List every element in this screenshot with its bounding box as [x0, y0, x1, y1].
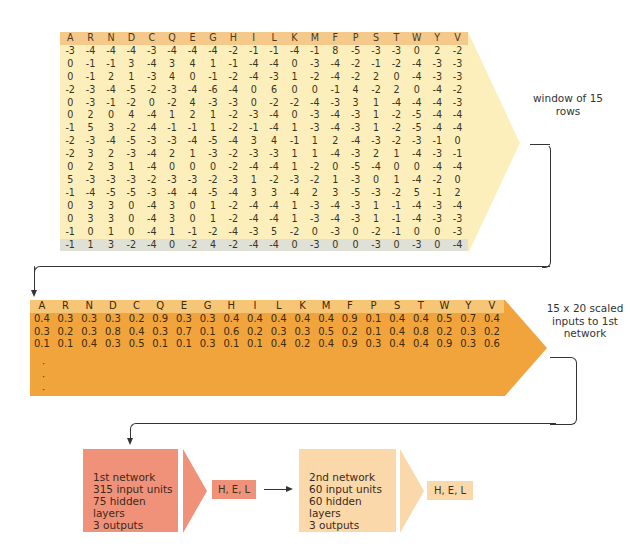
table-cell: 0	[162, 161, 182, 174]
table-cell: -3	[305, 200, 325, 213]
table-cell: 2	[162, 148, 182, 161]
table-cell: -1	[60, 239, 80, 252]
table-cell: -3	[407, 135, 427, 148]
table-cell: 2	[366, 148, 386, 161]
table-cell: -4	[284, 45, 304, 58]
table-cell: -4	[407, 148, 427, 161]
table-cell: 4	[182, 58, 202, 71]
table-cell: -3	[60, 45, 80, 58]
table-cell: 3	[325, 187, 345, 200]
table-cell: 3	[80, 213, 100, 226]
table-cell: -3	[182, 174, 202, 187]
table-cell: -4	[447, 200, 467, 213]
table-cell: 0.4	[125, 326, 149, 339]
table-cell: -3	[407, 239, 427, 252]
table-cell: 0.4	[77, 338, 101, 351]
table-cell: 0.2	[480, 326, 504, 339]
table-cell: 0.4	[409, 313, 433, 326]
table-cell: -3	[345, 122, 365, 135]
table-cell: -3	[345, 109, 365, 122]
table-cell: 0	[407, 226, 427, 239]
table-cell: -4	[101, 45, 121, 58]
table-cell: 1	[386, 148, 406, 161]
table-cell: -1	[80, 58, 100, 71]
table-cell: 0	[60, 58, 80, 71]
table-cell: -3	[366, 239, 386, 252]
table-cell: 1	[203, 109, 223, 122]
table-cell: -4	[101, 84, 121, 97]
connector-line	[40, 266, 550, 267]
table-cell: -4	[284, 187, 304, 200]
table-cell: -3	[142, 135, 162, 148]
scaled-inputs-label: 15 x 20 scaled inputs to 1st network	[540, 302, 630, 340]
table-cell: -4	[244, 161, 264, 174]
table-cell: 0.3	[30, 326, 54, 339]
table-cell: -2	[223, 109, 243, 122]
table-cell: 0	[203, 161, 223, 174]
table-cell: 0	[182, 200, 202, 213]
table-cell: 1	[284, 161, 304, 174]
column-header: I	[243, 300, 267, 313]
table-cell: -4	[407, 71, 427, 84]
table-cell: -4	[264, 161, 284, 174]
network2-arrow-shape	[400, 449, 424, 533]
column-header: R	[54, 300, 78, 313]
table-cell: 0	[60, 71, 80, 84]
table-cell: 1	[203, 122, 223, 135]
table-cell: 2	[182, 109, 202, 122]
table-cell: -2	[284, 97, 304, 110]
table-cell: -2	[386, 122, 406, 135]
table-cell: 0.5	[314, 326, 338, 339]
table-row: 0-121-340-1-2-4-31-2-4-220-4-3-3	[60, 71, 468, 84]
table-cell: 0.1	[148, 338, 172, 351]
table-cell: -3	[427, 200, 447, 213]
table-cell: -3	[203, 148, 223, 161]
table-cell: 0.8	[409, 326, 433, 339]
table-cell: 0.9	[148, 313, 172, 326]
second-network-box: 2nd network 60 input units 60 hidden lay…	[299, 449, 396, 532]
table-cell: 0	[427, 239, 447, 252]
table-cell: -4	[264, 213, 284, 226]
table-cell: 0	[325, 161, 345, 174]
table-cell: -4	[447, 109, 467, 122]
table-cell: 0	[121, 200, 141, 213]
table-cell: 0	[427, 226, 447, 239]
table-cell: -5	[121, 84, 141, 97]
table-cell: -4	[203, 45, 223, 58]
table-cell: 0.3	[172, 313, 196, 326]
table-cell: 2	[366, 71, 386, 84]
scaled-inputs-matrix: ARNDCQEGHILKMFPSTWYV0.40.30.30.30.20.90.…	[30, 300, 505, 396]
table-cell: -1	[427, 187, 447, 200]
table-cell: -2	[386, 58, 406, 71]
table-cell: 4	[345, 84, 365, 97]
table-cell: 8	[325, 45, 345, 58]
window-label: window of 15 rows	[520, 92, 616, 118]
table-cell: 0.3	[101, 338, 125, 351]
table-cell: 3	[162, 213, 182, 226]
column-header: F	[325, 32, 345, 45]
scaled-inputs-table: ARNDCQEGHILKMFPSTWYV0.40.30.30.30.20.90.…	[30, 300, 504, 351]
table-cell: 0	[284, 58, 304, 71]
table-cell: 1	[101, 226, 121, 239]
table-cell: 1	[366, 97, 386, 110]
table-row: 0-1-13-4341-1-4-40-3-4-2-1-2-4-3-3	[60, 58, 468, 71]
table-cell: 0.1	[362, 326, 386, 339]
table-row: 0330-4301-2-4-41-3-4-31-1-4-3-3	[60, 213, 468, 226]
table-cell: 0.3	[267, 326, 291, 339]
table-cell: -3	[345, 213, 365, 226]
column-header: H	[223, 32, 243, 45]
table-cell: -2	[60, 84, 80, 97]
table-cell: -3	[386, 45, 406, 58]
table-cell: -1	[325, 84, 345, 97]
table-cell: -4	[264, 109, 284, 122]
table-cell: -4	[325, 200, 345, 213]
column-header: R	[80, 32, 100, 45]
table-cell: 1	[121, 161, 141, 174]
table-cell: 1	[366, 109, 386, 122]
ellipsis-dot: ·	[42, 384, 45, 395]
table-cell: 0.4	[385, 338, 409, 351]
table-cell: -4	[162, 45, 182, 58]
table-cell: -3	[142, 187, 162, 200]
table-cell: 0.3	[362, 338, 386, 351]
network2-title: 2nd network	[309, 471, 396, 483]
